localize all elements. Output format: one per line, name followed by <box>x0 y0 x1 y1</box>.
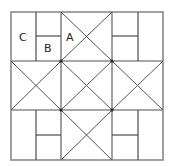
cell-bottom-right <box>112 110 138 160</box>
label-b: B <box>44 42 52 55</box>
quilt-diagram: C B A <box>0 0 177 166</box>
label-c: C <box>19 31 27 44</box>
cell-bottom-middle <box>61 110 112 160</box>
cell-middle-right <box>112 61 163 110</box>
cell-bottom-left <box>36 110 61 160</box>
cell-middle-left <box>11 61 61 110</box>
label-a: A <box>66 31 74 44</box>
cell-center <box>61 61 112 110</box>
cell-top-right <box>112 12 138 61</box>
